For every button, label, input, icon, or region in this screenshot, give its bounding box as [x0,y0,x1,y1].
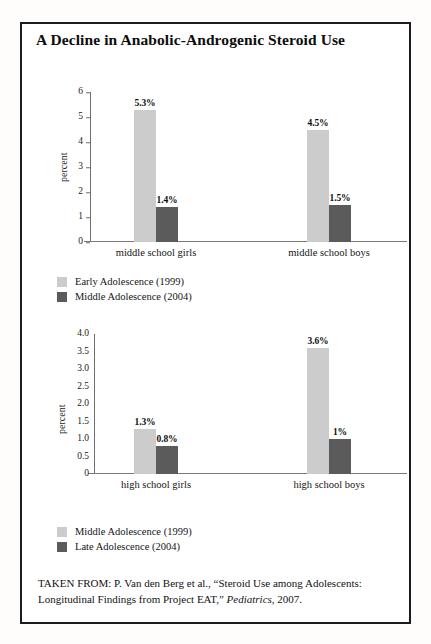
source-prefix: TAKEN FROM: P. Van den Berg et al., “Ste… [38,577,362,605]
high-school-y-tick: 1.0 [77,434,94,444]
bar-high-school-1-1: 1% [329,439,351,474]
middle-school-y-tick: 4 [78,137,90,147]
legend-swatch-dark [57,292,67,302]
high-school-y-tick: 0 [84,469,94,479]
bar-value-label: 1.3% [135,417,156,427]
middle-school-y-tick: 1 [78,212,90,222]
bar-middle-school-1-0: 4.5% [307,130,329,243]
high-school-y-tick: 1.5 [77,417,94,427]
bar-value-label: 1.5% [330,193,351,203]
chart-middle-school: percent 01234565.3%1.4%middle school gir… [22,64,409,264]
high-school-y-tick: 3.5 [77,347,94,357]
tick-mark [86,142,90,143]
middle-school-y-tick: 2 [78,187,90,197]
bar-value-label: 5.3% [135,98,156,108]
source-suffix: , 2007. [272,593,302,605]
tick-mark [86,117,90,118]
chart1-y-axis-label: percent [58,153,69,182]
middle-school-y-tick: 0 [78,237,90,247]
x-category-label: middle school girls [116,247,197,258]
x-category-label: high school boys [293,479,364,490]
bar-high-school-1-0: 3.6% [307,348,329,474]
high-school-y-tick: 3.0 [77,364,94,374]
legend-item: Early Adolescence (1999) [57,274,192,289]
bar-value-label: 1.4% [157,195,178,205]
bar-high-school-0-0: 1.3% [134,429,156,475]
legend-swatch-light [57,277,67,287]
high-school-y-tick: 4.0 [77,329,94,339]
legend-label: Middle Adolescence (2004) [75,291,192,302]
source-journal: Pediatrics [227,593,272,605]
chart1-legend: Early Adolescence (1999)Middle Adolescen… [57,274,192,304]
bar-value-label: 3.6% [308,336,329,346]
chart2-plot-area: 00.51.01.52.02.53.03.54.01.3%0.8%high sc… [94,334,385,474]
high-school-y-tick: 2.5 [77,382,94,392]
figure-frame: A Decline in Anabolic-Androgenic Steroid… [20,22,411,624]
tick-mark [86,192,90,193]
bar-middle-school-0-1: 1.4% [156,207,178,242]
bar-middle-school-0-0: 5.3% [134,110,156,243]
middle-school-y-tick: 6 [78,87,90,97]
chart2-legend: Middle Adolescence (1999)Late Adolescenc… [57,524,192,554]
tick-mark [86,242,90,243]
legend-label: Early Adolescence (1999) [75,276,184,287]
bar-high-school-0-1: 0.8% [156,446,178,474]
bar-value-label: 1% [333,427,347,437]
chart-high-school: percent 00.51.01.52.02.53.03.54.01.3%0.8… [22,312,409,504]
tick-mark [86,92,90,93]
bar-value-label: 4.5% [308,118,329,128]
middle-school-y-tick: 3 [78,162,90,172]
x-category-label: middle school boys [288,247,370,258]
tick-mark [86,217,90,218]
chart1-y-axis-line [90,92,91,242]
bar-value-label: 0.8% [157,434,178,444]
tick-mark [86,167,90,168]
legend-label: Late Adolescence (2004) [75,541,180,552]
high-school-y-tick: 0.5 [77,452,94,462]
chart2-y-axis-line [94,334,95,474]
legend-item: Middle Adolescence (1999) [57,524,192,539]
legend-item: Late Adolescence (2004) [57,539,192,554]
source-note: TAKEN FROM: P. Van den Berg et al., “Ste… [38,576,393,607]
page-canvas: A Decline in Anabolic-Androgenic Steroid… [0,0,431,644]
figure-title: A Decline in Anabolic-Androgenic Steroid… [36,31,345,49]
legend-swatch-dark [57,542,67,552]
chart2-y-axis-label: percent [56,405,67,434]
chart1-x-axis-line [84,241,407,242]
legend-swatch-light [57,527,67,537]
bar-middle-school-1-1: 1.5% [329,205,351,243]
legend-item: Middle Adolescence (2004) [57,289,192,304]
legend-label: Middle Adolescence (1999) [75,526,192,537]
x-category-label: high school girls [121,479,191,490]
high-school-y-tick: 2.0 [77,399,94,409]
chart1-plot-area: 01234565.3%1.4%middle school girls4.5%1.… [90,92,385,242]
middle-school-y-tick: 5 [78,112,90,122]
